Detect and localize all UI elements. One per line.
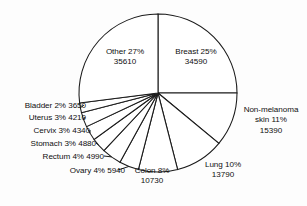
- pie-slice-group: [79, 14, 237, 172]
- slice-label-lung-line1: Lung 10%: [196, 160, 250, 170]
- slice-label-bladder: Bladder 2% 3650: [2, 101, 86, 111]
- slice-label-uterus-line1: Uterus 3% 4210: [8, 113, 86, 123]
- slice-label-rectum: Rectum 4% 4990: [34, 152, 104, 162]
- slice-label-colon-value: 10730: [126, 176, 178, 186]
- slice-label-other: Other 27% 35610: [92, 47, 158, 68]
- slice-label-cervix-line1: Cervix 3% 4340: [16, 126, 90, 136]
- slice-label-skin-value: 15390: [236, 126, 306, 136]
- slice-label-bladder-line1: Bladder 2% 3650: [2, 101, 86, 111]
- slice-label-lung: Lung 10% 13790: [196, 160, 250, 181]
- slice-label-skin-line1: Non-melanoma: [236, 105, 306, 115]
- slice-label-stomach: Stomach 3% 4880: [22, 139, 96, 149]
- slice-label-non-melanoma-skin: Non-melanoma skin 11% 15390: [236, 105, 306, 136]
- slice-label-cervix: Cervix 3% 4340: [16, 126, 90, 136]
- slice-label-uterus: Uterus 3% 4210: [8, 113, 86, 123]
- slice-label-breast-line1: Breast 25%: [163, 47, 229, 57]
- slice-label-colon-line1: Colon 8%: [126, 166, 178, 176]
- slice-label-ovary-line1: Ovary 4% 5940: [57, 166, 125, 176]
- slice-label-skin-line2: skin 11%: [236, 115, 306, 125]
- slice-label-breast: Breast 25% 34590: [163, 47, 229, 68]
- slice-label-other-line1: Other 27%: [92, 47, 158, 57]
- slice-label-lung-value: 13790: [196, 170, 250, 180]
- slice-label-rectum-line1: Rectum 4% 4990: [34, 152, 104, 162]
- slice-label-ovary: Ovary 4% 5940: [57, 166, 125, 176]
- slice-label-other-value: 35610: [92, 57, 158, 67]
- slice-label-breast-value: 34590: [163, 57, 229, 67]
- slice-label-colon: Colon 8% 10730: [126, 166, 178, 187]
- pie-chart-figure: Other 27% 35610 Breast 25% 34590 Non-mel…: [0, 0, 307, 206]
- slice-label-stomach-line1: Stomach 3% 4880: [22, 139, 96, 149]
